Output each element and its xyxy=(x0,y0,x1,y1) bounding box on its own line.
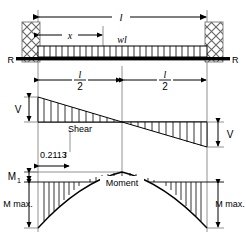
shear-value-dimension-right: V xyxy=(207,122,234,147)
half-span-right-denominator: 2 xyxy=(162,81,168,92)
moment-max-right-dimension: M max. xyxy=(207,184,245,228)
distributed-load-block xyxy=(38,46,207,57)
reaction-left-label: R xyxy=(8,55,15,65)
moment-m1-label: M xyxy=(8,171,16,182)
half-span-dimension-right: l 2 xyxy=(124,66,206,92)
shear-value-right-label: V xyxy=(227,129,234,140)
moment-caption: Moment xyxy=(106,178,139,188)
shear-value-dimension-left: V xyxy=(15,97,38,122)
moment-diagram: Moment xyxy=(24,172,224,228)
distance-x-label: x xyxy=(67,30,73,41)
span-length-label: l xyxy=(119,11,122,23)
shear-value-left-label: V xyxy=(15,104,22,115)
shear-diagram: Shear xyxy=(38,97,207,147)
inflection-distance-label: 0.2113 xyxy=(40,150,67,160)
moment-max-left-label: M max. xyxy=(3,199,33,209)
moment-max-right-label: M max. xyxy=(215,199,245,209)
beam-diagram-figure: l x wl R R xyxy=(0,0,246,238)
moment-m1-subscript: 1 xyxy=(17,177,21,184)
reaction-right-label: R xyxy=(232,55,239,65)
half-span-dimension-left: l 2 xyxy=(39,66,121,92)
inflection-dimension: 0.2113 l xyxy=(39,150,69,166)
load-label: wl xyxy=(117,34,127,45)
support-right xyxy=(205,22,223,62)
span-dimension: l xyxy=(39,9,206,25)
moment-max-left-dimension: M max. xyxy=(3,184,38,228)
beam-member xyxy=(16,57,230,60)
beam-diagram-svg: l x wl R R xyxy=(0,0,246,238)
x-dimension: x xyxy=(39,28,102,42)
half-span-left-numerator: l xyxy=(79,69,82,80)
half-span-left-denominator: 2 xyxy=(77,81,83,92)
half-span-right-numerator: l xyxy=(164,69,167,80)
shear-caption: Shear xyxy=(68,124,92,134)
support-left xyxy=(22,22,40,62)
